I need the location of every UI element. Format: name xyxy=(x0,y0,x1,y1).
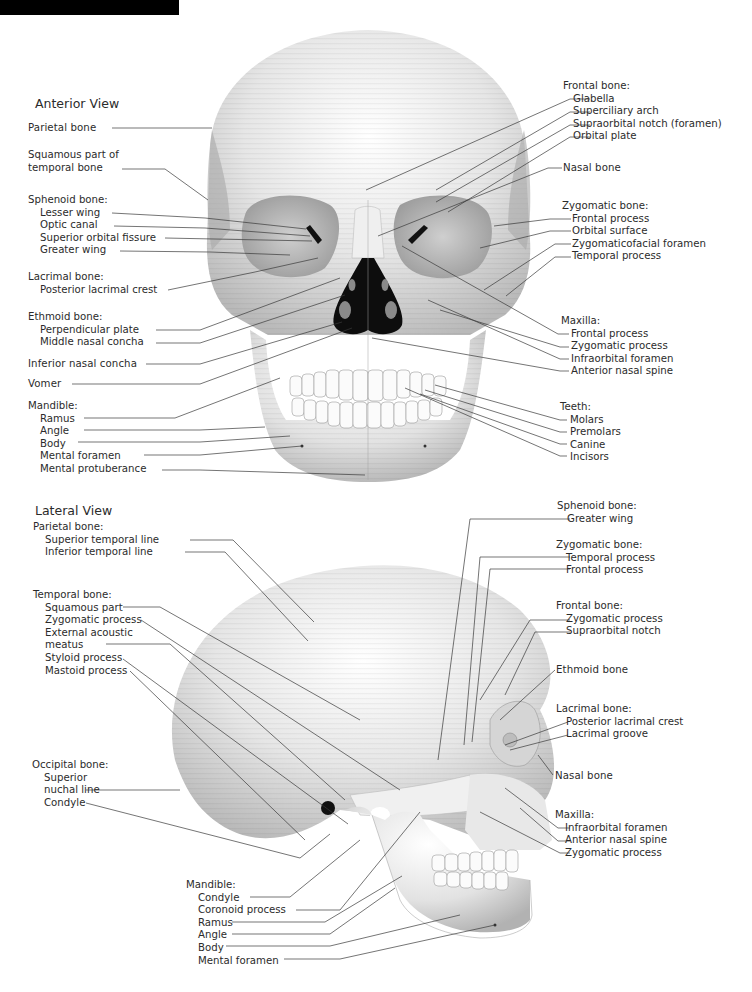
group-sphenoid-bone-lateral: Sphenoid bone: Greater wing xyxy=(557,500,637,525)
group-ethmoid-bone: Ethmoid bone: Perpendicular plate Middle… xyxy=(28,311,144,349)
group-lacrimal-bone: Lacrimal bone: Posterior lacrimal crest xyxy=(28,271,157,296)
group-maxilla-lateral: Maxilla: Infraorbital foramen Anterior n… xyxy=(555,809,667,859)
group-frontal-bone-anterior: Frontal bone: Glabella Superciliary arch… xyxy=(563,80,722,143)
label-nasal-bone-lateral: Nasal bone xyxy=(555,770,613,783)
anterior-skull xyxy=(207,30,530,482)
group-mandible-lateral: Mandible: Condyle Coronoid process Ramus… xyxy=(186,879,286,967)
group-maxilla-anterior: Maxilla: Frontal process Zygomatic proce… xyxy=(561,315,673,378)
label-ethmoid-bone-lateral: Ethmoid bone xyxy=(556,664,628,677)
label-vomer: Vomer xyxy=(28,378,61,391)
lateral-view-title: Lateral View xyxy=(35,503,112,518)
label-inferior-nasal-concha: Inferior nasal concha xyxy=(28,358,137,371)
label-nasal-bone-anterior: Nasal bone xyxy=(563,162,621,175)
group-sphenoid-bone: Sphenoid bone: Lesser wing Optic canal S… xyxy=(28,194,156,257)
group-parietal-bone-lateral: Parietal bone: Superior temporal line In… xyxy=(33,521,159,559)
anterior-view-title: Anterior View xyxy=(35,96,119,111)
group-teeth: Teeth: Molars Premolars Canine Incisors xyxy=(560,401,621,464)
group-temporal-bone-lateral: Temporal bone: Squamous part Zygomatic p… xyxy=(33,589,142,677)
group-zygomatic-bone-anterior: Zygomatic bone: Frontal process Orbital … xyxy=(562,200,706,263)
group-occipital-bone: Occipital bone: Superior nuchal line Con… xyxy=(32,759,109,809)
label-squamous-temporal: Squamous part of temporal bone xyxy=(28,149,119,174)
label-parietal-bone: Parietal bone xyxy=(28,122,96,135)
group-mandible-anterior: Mandible: Ramus Angle Body Mental forame… xyxy=(28,400,146,476)
group-zygomatic-bone-lateral: Zygomatic bone: Temporal process Frontal… xyxy=(556,539,655,577)
group-frontal-bone-lateral: Frontal bone: Zygomatic process Supraorb… xyxy=(556,600,663,638)
group-lacrimal-bone-lateral: Lacrimal bone: Posterior lacrimal crest … xyxy=(556,703,683,741)
